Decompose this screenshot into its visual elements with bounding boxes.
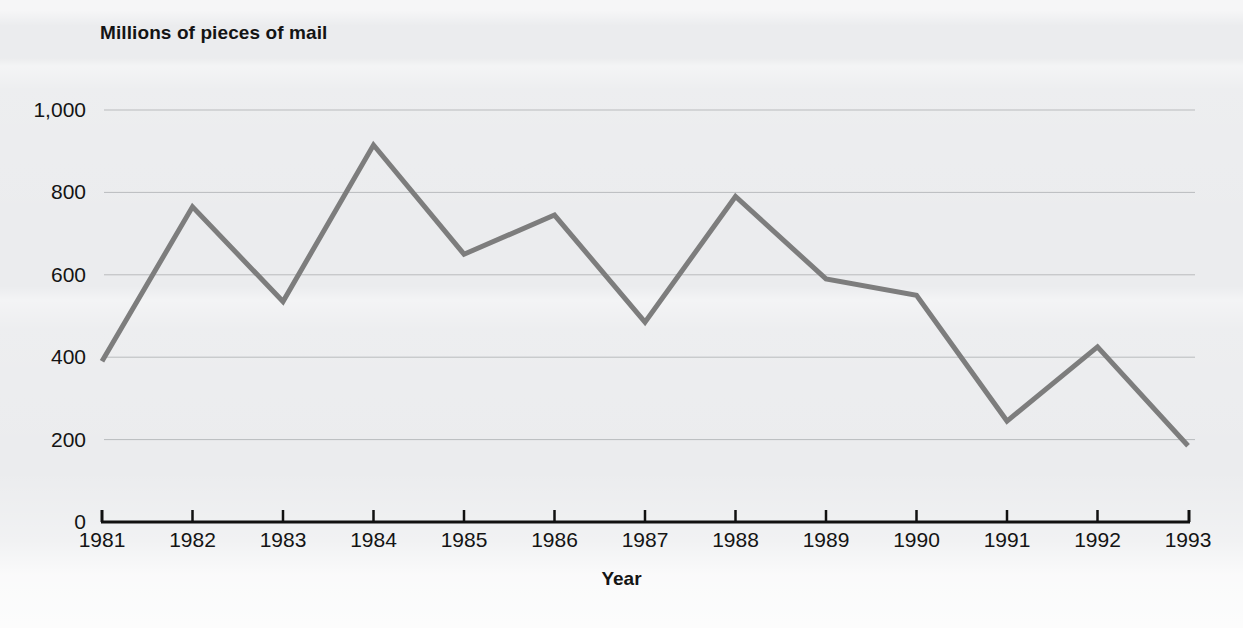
x-axis-tick-marks bbox=[193, 510, 1098, 522]
x-tick-label: 1987 bbox=[622, 528, 669, 552]
x-tick-label: 1992 bbox=[1074, 528, 1121, 552]
x-tick-label: 1983 bbox=[260, 528, 307, 552]
y-tick-label: 800 bbox=[51, 180, 86, 204]
x-tick-label: 1993 bbox=[1165, 528, 1212, 552]
x-tick-label: 1982 bbox=[169, 528, 216, 552]
data-series-line bbox=[102, 145, 1188, 446]
chart-figure: Millions of pieces of mail 0200400600800… bbox=[0, 0, 1243, 628]
x-tick-label: 1986 bbox=[531, 528, 578, 552]
gridlines bbox=[104, 110, 1195, 440]
x-tick-label: 1985 bbox=[441, 528, 488, 552]
x-tick-label: 1989 bbox=[803, 528, 850, 552]
x-tick-label: 1981 bbox=[79, 528, 126, 552]
y-tick-label: 400 bbox=[51, 345, 86, 369]
series-polyline bbox=[102, 145, 1188, 446]
x-tick-label: 1991 bbox=[984, 528, 1031, 552]
x-axis-title: Year bbox=[0, 568, 1243, 590]
x-tick-label: 1990 bbox=[893, 528, 940, 552]
y-tick-label: 200 bbox=[51, 428, 86, 452]
x-tick-label: 1984 bbox=[350, 528, 397, 552]
x-tick-label: 1988 bbox=[712, 528, 759, 552]
y-tick-label: 600 bbox=[51, 263, 86, 287]
y-tick-label: 1,000 bbox=[33, 98, 86, 122]
